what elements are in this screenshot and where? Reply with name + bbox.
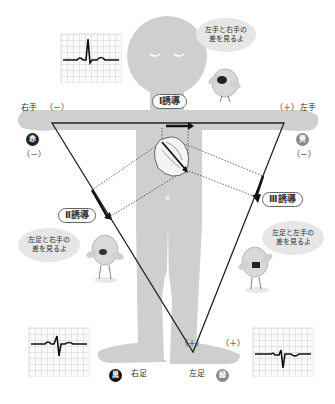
label-left-foot: 左足: [189, 370, 205, 378]
label-right-foot: 右足: [131, 370, 147, 378]
polarity-left-hand: （＋）: [275, 104, 299, 112]
electrode-yellow-badge: 黄: [296, 133, 309, 146]
lead3-ecg-trace: [253, 328, 313, 376]
bubble-lead2-line2: 差を見るよ: [32, 245, 67, 254]
bubble-lead3-line1: 左足と左手の: [272, 229, 314, 238]
lead3-tag: Ⅲ誘導: [262, 192, 303, 207]
lead3-ecg: [252, 327, 314, 377]
lead2-tag: Ⅱ誘導: [58, 208, 96, 223]
electrode-green-badge: 緑: [216, 369, 229, 382]
center-mark: ×: [164, 195, 171, 203]
bird-lead1: [207, 69, 242, 102]
lead2-ecg: [28, 327, 90, 377]
speech-bubble-lead3: 左足と左手の 差を見るよ: [262, 221, 324, 255]
bubble-lead2-line1: 左足と右手の: [28, 236, 70, 245]
speech-bubble-lead2: 左足と右手の 差を見るよ: [18, 228, 80, 262]
bird-lead2: [85, 235, 125, 283]
bubble-lead1-line1: 左手と右手の: [205, 26, 247, 35]
lead2-ecg-trace: [29, 328, 89, 376]
label-right-hand: 右手: [21, 104, 37, 112]
bubble-lead1-line2: 差を見るよ: [209, 35, 244, 44]
lead3-vector: [256, 176, 263, 197]
bubble-lead3-line2: 差を見るよ: [276, 238, 311, 247]
speech-bubble-lead1: 左手と右手の 差を見るよ: [196, 18, 256, 52]
lead1-ecg: [60, 33, 122, 83]
lead1-tag: Ⅰ誘導: [152, 94, 187, 109]
polarity-foot-right: （＋）: [221, 340, 245, 348]
polarity-right-hand: （－）: [45, 104, 69, 112]
polarity-right-hand-lower: （－）: [22, 151, 46, 159]
lead1-ecg-trace: [61, 34, 121, 82]
label-left-hand: 左手: [300, 104, 316, 112]
polarity-foot-left: （＋）: [180, 340, 204, 348]
polarity-left-hand-lower: （－）: [292, 151, 316, 159]
electrode-black-badge: 黒: [109, 369, 122, 382]
electrode-red-badge: 赤: [26, 133, 39, 146]
bird-lead3: [237, 247, 274, 293]
